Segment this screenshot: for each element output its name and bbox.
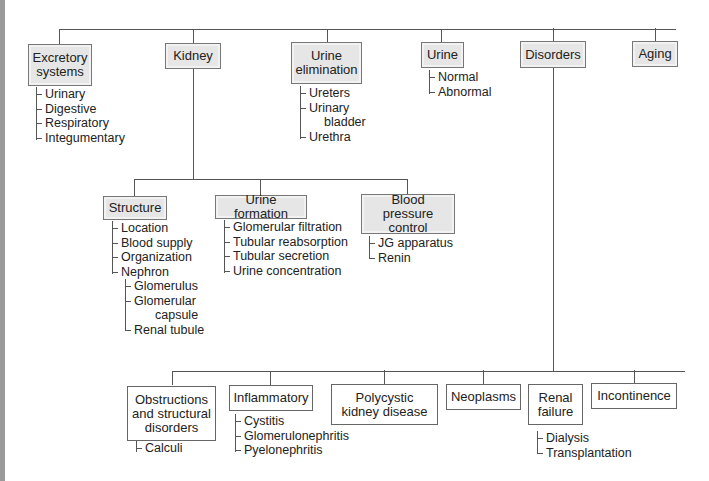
kidney-down-connector — [193, 69, 194, 179]
node-renal-failure: Renal failure — [528, 384, 583, 425]
list-item: Urinary — [36, 87, 125, 102]
list-item: Renin — [369, 251, 453, 266]
nephron-sublist: Glomerulus Glomerular capsule Renal tubu… — [125, 279, 204, 337]
connector — [59, 29, 60, 45]
list-item: Transplantation — [537, 446, 632, 461]
list-item: Nephron — [112, 265, 204, 280]
disorders-horizontal-connector — [172, 371, 685, 372]
list-item: Blood supply — [112, 236, 204, 251]
obstructions-list: Calculi — [136, 441, 183, 456]
connector — [441, 29, 442, 43]
list-item: Glomerular — [125, 294, 204, 309]
node-inflammatory: Inflammatory — [229, 385, 313, 411]
list-item: Pyelonephritis — [235, 443, 349, 458]
kidney-horizontal-connector — [134, 179, 408, 180]
connector — [655, 28, 656, 42]
list-item: Glomerulonephritis — [235, 429, 349, 444]
inflammatory-list: Cystitis Glomerulonephritis Pyelonephrit… — [235, 414, 349, 458]
node-urine-formation: Urine formation — [215, 195, 307, 219]
excretory-systems-list: Urinary Digestive Respiratory Integument… — [36, 87, 125, 145]
page-edge-strip — [0, 0, 5, 481]
list-item: Dialysis — [537, 431, 632, 446]
list-item: Calculi — [136, 441, 183, 456]
connector — [483, 370, 484, 384]
node-incontinence: Incontinence — [591, 383, 677, 409]
list-item: Cystitis — [235, 414, 349, 429]
node-obstructions: Obstructions and structural disorders — [127, 386, 216, 441]
list-item: Glomerular filtration — [224, 220, 348, 235]
list-item: Urinary — [300, 101, 366, 116]
list-item: Integumentary — [36, 131, 125, 146]
list-item: Ureters — [300, 86, 366, 101]
disorders-down-connector — [553, 68, 554, 371]
list-item: Location — [112, 221, 204, 236]
list-item: Organization — [112, 250, 204, 265]
renal-failure-list: Dialysis Transplantation — [537, 431, 632, 460]
list-item: Urine concentration — [224, 264, 348, 279]
node-structure: Structure — [103, 196, 167, 220]
blood-pressure-list: JG apparatus Renin — [369, 236, 453, 265]
list-item: Abnormal — [429, 85, 492, 100]
urine-list: Normal Abnormal — [429, 70, 492, 99]
structure-list: Location Blood supply Organization Nephr… — [112, 221, 204, 337]
urine-formation-list: Glomerular filtration Tubular reabsorpti… — [224, 220, 348, 278]
list-item: Renal tubule — [125, 323, 204, 338]
node-disorders: Disorders — [520, 41, 586, 68]
node-urine-elimination: Urine elimination — [291, 42, 362, 84]
node-excretory-systems: Excretory systems — [28, 44, 92, 86]
list-item: bladder — [300, 115, 366, 130]
list-item: JG apparatus — [369, 236, 453, 251]
node-urine: Urine — [421, 42, 464, 68]
top-horizontal-connector — [59, 29, 676, 30]
node-kidney: Kidney — [165, 43, 221, 69]
connector — [634, 370, 635, 384]
connector — [384, 370, 385, 384]
list-item: Urethra — [300, 130, 366, 145]
node-blood-pressure-control: Blood pressure control — [361, 194, 455, 234]
node-neoplasms: Neoplasms — [446, 384, 521, 410]
list-item: Glomerulus — [125, 279, 204, 294]
connector — [134, 179, 135, 196]
list-item: Respiratory — [36, 116, 125, 131]
connector — [270, 371, 271, 385]
list-item: Tubular reabsorption — [224, 235, 348, 250]
connector — [172, 371, 173, 385]
list-item: Tubular secretion — [224, 249, 348, 264]
list-item: Normal — [429, 70, 492, 85]
urine-elimination-list: Ureters Urinary bladder Urethra — [300, 86, 366, 144]
list-item: capsule — [125, 308, 204, 323]
list-item: Digestive — [36, 102, 125, 117]
node-aging: Aging — [632, 41, 678, 67]
connector — [327, 29, 328, 43]
